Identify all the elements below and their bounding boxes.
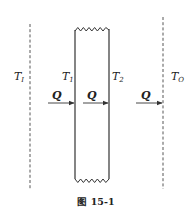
wall-left-temperature-label: T1 [62,70,74,84]
outer-fluid-temperature-label: TO [171,70,184,84]
heat-flow-label: Q [87,89,97,102]
heat-transfer-diagram: TI T1 T2 TO Q Q Q 图 15-1 [0,0,192,215]
heat-flow-label: Q [141,89,151,102]
heat-flow-wall: Q [83,89,108,103]
figure-caption: 图 15-1 [77,196,114,207]
wall-bottom-break-line [75,179,109,183]
inner-fluid-temperature-label: TI [14,70,24,84]
heat-flow-label: Q [52,89,62,102]
heat-flow-inner: Q [48,89,74,103]
wall-slab [75,28,109,183]
wall-top-break-line [75,28,109,32]
heat-flow-outer: Q [136,89,162,103]
wall-right-temperature-label: T2 [112,70,124,84]
